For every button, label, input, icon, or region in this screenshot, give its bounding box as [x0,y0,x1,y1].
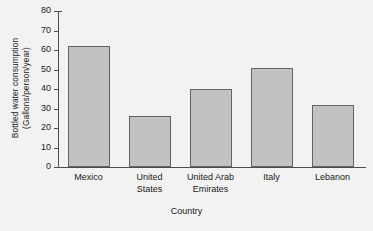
plot-area: 01020304050607080 [58,11,363,168]
bar [251,68,293,167]
x-axis-category-label: United States [119,172,180,195]
x-axis-category-label: Italy [241,172,302,184]
y-axis-tick: 80 [54,11,58,12]
y-axis-line [58,11,59,168]
y-axis-title-line2: (Gallons/person/year) [21,37,32,137]
y-axis-tick-label: 40 [41,83,51,94]
bar [190,89,232,167]
bar [312,105,354,167]
x-axis-title: Country [0,206,373,216]
y-axis-tick: 60 [54,50,58,51]
y-axis-tick: 40 [54,89,58,90]
y-axis-tick: 30 [54,109,58,110]
y-axis-tick-label: 70 [41,25,51,36]
y-axis-tick: 0 [54,167,58,168]
x-axis-category-label: Mexico [58,172,119,184]
y-axis-tick: 10 [54,148,58,149]
y-axis-tick: 70 [54,31,58,32]
y-axis-title-line1: Bottled water consumption [10,37,20,137]
y-axis-tick-label: 20 [41,122,51,133]
bar [68,46,110,167]
bar [129,116,171,167]
y-axis-title: Bottled water consumption (Gallons/perso… [0,0,42,175]
y-axis-tick-label: 10 [41,142,51,153]
x-axis-category-label: United Arab Emirates [180,172,241,195]
y-axis-tick-label: 30 [41,103,51,114]
y-axis-tick-label: 80 [41,5,51,16]
bar-chart: Bottled water consumption (Gallons/perso… [0,0,373,231]
y-axis-tick: 50 [54,70,58,71]
y-axis-tick-label: 0 [46,161,51,172]
x-axis-line [58,167,366,168]
x-axis-category-label: Lebanon [302,172,363,184]
y-axis-tick-label: 60 [41,44,51,55]
y-axis-tick: 20 [54,128,58,129]
y-axis-tick-label: 50 [41,64,51,75]
y-axis-top-cap [58,11,62,12]
